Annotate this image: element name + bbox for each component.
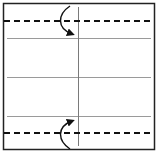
fold-diagram	[0, 0, 163, 155]
